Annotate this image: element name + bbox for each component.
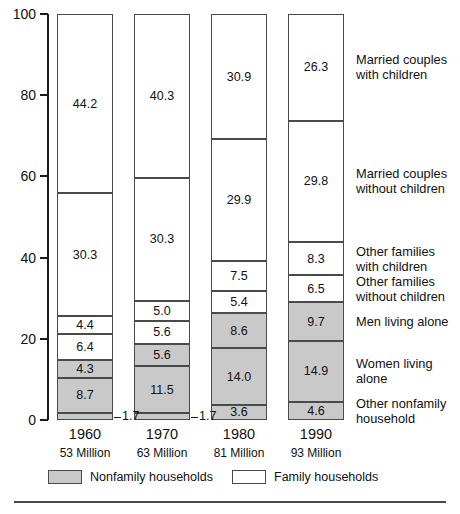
bar-segment: 6.5 bbox=[288, 275, 344, 301]
segment-value-label: 5.6 bbox=[153, 326, 170, 338]
bar-segment: 7.5 bbox=[211, 261, 267, 291]
bar-segment: 5.4 bbox=[211, 291, 267, 313]
segment-value-label: 9.7 bbox=[307, 316, 324, 328]
bar-segment: 6.4 bbox=[57, 334, 113, 360]
bar-segment: 14.0 bbox=[211, 348, 267, 405]
bar-segment: 26.3 bbox=[288, 14, 344, 121]
bar-segment: 4.4 bbox=[57, 316, 113, 334]
y-axis-line bbox=[47, 14, 49, 420]
bar-segment bbox=[57, 413, 113, 420]
segment-callout: 1.7 bbox=[191, 410, 216, 422]
bar-1980: 30.929.97.55.48.614.03.6 bbox=[211, 14, 267, 420]
bar-segment: 4.3 bbox=[57, 360, 113, 377]
family-swatch-icon bbox=[232, 470, 266, 484]
bar-segment: 5.0 bbox=[134, 301, 190, 321]
category-label: Women living alone bbox=[356, 356, 460, 386]
segment-value-label: 40.3 bbox=[150, 90, 174, 102]
bar-segment: 8.7 bbox=[57, 378, 113, 413]
key-nonfamily: Nonfamily households bbox=[48, 470, 213, 484]
segment-value-label: 44.2 bbox=[73, 98, 97, 110]
bar-segment: 8.3 bbox=[288, 242, 344, 276]
y-tick-label: 0 bbox=[0, 413, 36, 427]
callout-value-label: 1.7 bbox=[199, 409, 216, 423]
bar-segment: 3.6 bbox=[211, 405, 267, 420]
segment-value-label: 30.3 bbox=[150, 233, 174, 245]
y-tick-mark bbox=[40, 419, 48, 421]
y-tick-mark bbox=[40, 13, 48, 15]
segment-value-label: 26.3 bbox=[304, 61, 328, 73]
bar-segment: 30.3 bbox=[134, 178, 190, 301]
y-tick-label: 80 bbox=[0, 88, 36, 102]
category-label: Other nonfamily household bbox=[356, 396, 460, 426]
y-tick-label: 100 bbox=[0, 7, 36, 21]
segment-value-label: 5.4 bbox=[230, 296, 247, 308]
bar-segment: 14.9 bbox=[288, 341, 344, 401]
bar-segment: 5.6 bbox=[134, 321, 190, 344]
segment-value-label: 4.3 bbox=[76, 363, 93, 375]
y-tick-label: 20 bbox=[0, 332, 36, 346]
segment-value-label: 30.3 bbox=[73, 249, 97, 261]
bar-1990: 26.329.88.36.59.714.94.6 bbox=[288, 14, 344, 420]
segment-value-label: 5.6 bbox=[153, 349, 170, 361]
segment-value-label: 29.9 bbox=[227, 194, 251, 206]
x-label-1990: 1990 bbox=[261, 426, 371, 442]
callout-value-label: 1.7 bbox=[122, 409, 139, 423]
segment-value-label: 4.4 bbox=[76, 319, 93, 331]
bar-segment: 11.5 bbox=[134, 366, 190, 413]
category-label: Men living alone bbox=[356, 314, 460, 329]
bar-segment: 30.3 bbox=[57, 193, 113, 316]
bar-segment bbox=[134, 413, 190, 420]
segment-value-label: 5.0 bbox=[153, 305, 170, 317]
key-family-label: Family households bbox=[274, 470, 378, 484]
x-sublabel-1990: 93 Million bbox=[261, 446, 371, 460]
bar-1960: 44.230.34.46.44.38.7 bbox=[57, 14, 113, 420]
category-label: Married couples with children bbox=[356, 52, 460, 82]
segment-value-label: 8.3 bbox=[307, 253, 324, 265]
bar-segment: 44.2 bbox=[57, 14, 113, 193]
bar-segment: 30.9 bbox=[211, 14, 267, 139]
category-label: Other families with children bbox=[356, 244, 460, 274]
segment-value-label: 11.5 bbox=[150, 384, 173, 396]
y-tick-mark bbox=[40, 94, 48, 96]
y-tick-label: 60 bbox=[0, 169, 36, 183]
key-family: Family households bbox=[232, 470, 378, 484]
y-tick-mark bbox=[40, 338, 48, 340]
y-tick-label: 40 bbox=[0, 251, 36, 265]
segment-value-label: 4.6 bbox=[307, 405, 324, 417]
segment-value-label: 6.4 bbox=[76, 341, 93, 353]
segment-value-label: 29.8 bbox=[304, 175, 328, 187]
y-tick-mark bbox=[40, 175, 48, 177]
segment-callout: 1.7 bbox=[114, 410, 139, 422]
callout-leader-icon bbox=[114, 417, 121, 418]
segment-value-label: 8.7 bbox=[76, 389, 93, 401]
callout-leader-icon bbox=[191, 417, 198, 418]
category-label: Married couples without children bbox=[356, 166, 460, 196]
segment-value-label: 8.6 bbox=[230, 325, 247, 337]
plot-area: 020406080100 44.230.34.46.44.38.740.330.… bbox=[0, 0, 460, 440]
bar-segment: 4.6 bbox=[288, 402, 344, 421]
segment-value-label: 3.6 bbox=[230, 406, 247, 418]
segment-value-label: 7.5 bbox=[230, 270, 247, 282]
nonfamily-swatch-icon bbox=[48, 470, 82, 484]
segment-value-label: 6.5 bbox=[307, 283, 324, 295]
bar-segment: 5.6 bbox=[134, 344, 190, 367]
key-nonfamily-label: Nonfamily households bbox=[90, 470, 213, 484]
bar-segment: 40.3 bbox=[134, 14, 190, 178]
bar-segment: 8.6 bbox=[211, 313, 267, 348]
segment-value-label: 14.0 bbox=[227, 371, 251, 383]
bar-segment: 29.9 bbox=[211, 139, 267, 260]
segment-value-label: 30.9 bbox=[227, 71, 251, 83]
bottom-divider bbox=[14, 501, 446, 503]
y-tick-mark bbox=[40, 257, 48, 259]
chart-page: 020406080100 44.230.34.46.44.38.740.330.… bbox=[0, 0, 460, 514]
segment-value-label: 14.9 bbox=[304, 365, 328, 377]
bar-1970: 40.330.35.05.65.611.5 bbox=[134, 14, 190, 420]
bar-segment: 9.7 bbox=[288, 302, 344, 341]
category-label: Other families without children bbox=[356, 274, 460, 304]
bar-segment: 29.8 bbox=[288, 121, 344, 242]
